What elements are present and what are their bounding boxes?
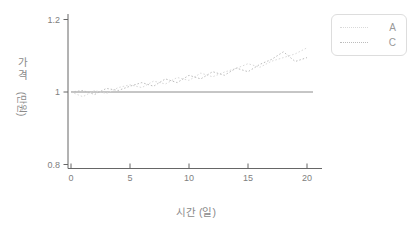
svg-text:20: 20 [302,173,312,183]
series-a-line-sample [340,27,368,28]
series-c-line-sample [340,42,368,43]
legend-entry-c: C [340,37,396,48]
legend-label-a: A [389,22,396,33]
price-time-chart: 051015200.811.2 가격 (만원) 시간 (일) A C [0,0,413,233]
svg-text:1.2: 1.2 [47,15,60,25]
legend-entry-a: A [340,22,396,33]
svg-text:15: 15 [243,173,253,183]
y-axis-unit-label: (만원) [15,92,30,117]
svg-text:10: 10 [184,173,194,183]
svg-text:1: 1 [55,87,60,97]
svg-text:5: 5 [127,173,132,183]
svg-text:0: 0 [68,173,73,183]
x-axis-label: 시간 (일) [176,204,216,219]
legend: A C [331,14,407,56]
svg-text:0.8: 0.8 [47,160,60,170]
legend-label-c: C [389,37,396,48]
y-axis-label: 가격 [17,56,29,81]
